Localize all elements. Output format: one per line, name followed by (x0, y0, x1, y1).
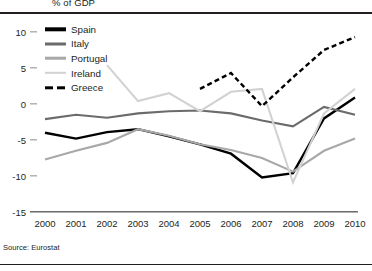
bottom-rule (0, 264, 372, 265)
legend-swatch-ireland-icon (45, 68, 66, 78)
legend-swatch-greece-icon (45, 83, 66, 93)
y-axis-tick-label: -10 (4, 171, 26, 182)
x-axis-tick-label: 2009 (313, 218, 334, 229)
chart-legend: SpainItalyPortugalIrelandGreece (45, 22, 108, 95)
x-axis-tick-label: 2005 (189, 218, 210, 229)
y-axis-tick-mark (30, 67, 37, 68)
x-axis-line (30, 211, 358, 212)
series-line-italy (45, 107, 355, 126)
x-axis-tick-label: 2007 (251, 218, 272, 229)
legend-label: Italy (71, 38, 89, 49)
legend-swatch-italy-icon (45, 39, 66, 49)
legend-item-greece[interactable]: Greece (45, 80, 108, 95)
x-axis-tick-label: 2010 (344, 218, 365, 229)
x-axis-tick-label: 2001 (65, 218, 86, 229)
y-axis-tick-label: -15 (4, 207, 26, 218)
legend-item-spain[interactable]: Spain (45, 22, 108, 37)
x-axis-tick-label: 2000 (34, 218, 55, 229)
chart-figure: % of GDP 1050-5-10-15 200020012002200320… (0, 0, 372, 271)
x-axis-tick-label: 2008 (282, 218, 303, 229)
y-axis-tick-mark (30, 103, 37, 104)
legend-label: Ireland (71, 68, 101, 79)
series-line-ireland (107, 65, 355, 182)
x-axis-tick-label: 2006 (220, 218, 241, 229)
y-axis-tick-label: 10 (4, 27, 26, 38)
y-axis-tick-mark (30, 31, 37, 32)
y-axis-tick-mark (30, 139, 37, 140)
legend-swatch-portugal-icon (45, 53, 66, 63)
source-note: Source: Eurostat (3, 243, 60, 252)
y-axis-tick-label: -5 (4, 135, 26, 146)
y-axis-tick-label: 0 (4, 99, 26, 110)
legend-item-italy[interactable]: Italy (45, 37, 108, 52)
legend-swatch-spain-icon (45, 24, 66, 34)
x-axis-tick-label: 2003 (127, 218, 148, 229)
legend-label: Spain (71, 24, 96, 35)
y-axis-tick-mark (30, 175, 37, 176)
x-axis-tick-label: 2002 (96, 218, 117, 229)
legend-label: Greece (71, 82, 103, 93)
x-axis-tick-label: 2004 (158, 218, 179, 229)
legend-item-ireland[interactable]: Ireland (45, 66, 108, 81)
legend-label: Portugal (71, 53, 108, 64)
y-axis-tick-label: 5 (4, 63, 26, 74)
legend-item-portugal[interactable]: Portugal (45, 51, 108, 66)
